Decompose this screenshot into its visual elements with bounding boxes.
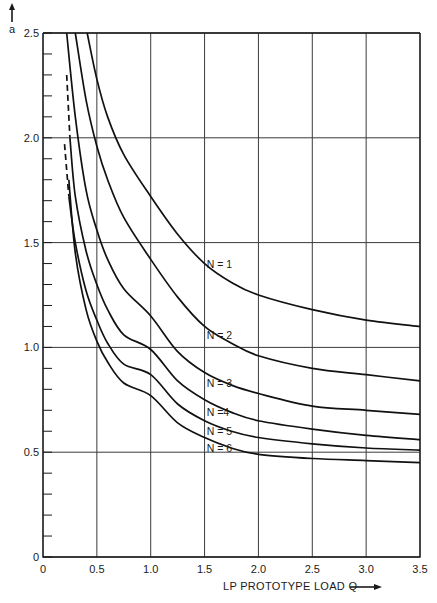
grid: [43, 33, 420, 557]
y-tick-labels: 00.51.01.52.02.5: [24, 27, 39, 563]
x-tick-label: 1.0: [143, 563, 158, 575]
curve-n-1: [87, 33, 420, 326]
plot-frame: [43, 33, 420, 557]
y-minor-ticks: [43, 33, 52, 557]
curve-dashed-extension: [65, 144, 69, 196]
x-tick-label: 0: [40, 563, 46, 575]
curve-n-2: [75, 33, 420, 381]
x-tick-labels: 00.51.01.52.02.53.03.5: [40, 563, 428, 575]
curve-n-5: [69, 196, 420, 450]
curve-label-n-1: N = 1: [207, 258, 233, 270]
curve-label-n-5: N = 5: [207, 425, 233, 437]
chart: 00.51.01.52.02.53.03.5 00.51.01.52.02.5 …: [0, 0, 437, 603]
curve-labels: N = 1N = 2N = 3N =4N = 5N = 6: [207, 258, 233, 454]
curve-n-3: [67, 33, 420, 414]
y-tick-label: 0.5: [24, 446, 39, 458]
y-tick-label: 1.5: [24, 237, 39, 249]
curve-n-6: [69, 180, 420, 463]
x-axis-label: LP PROTOTYPE LOAD Q: [223, 580, 357, 592]
x-tick-label: 3.0: [358, 563, 373, 575]
y-tick-label: 2.0: [24, 132, 39, 144]
curve-label-n-2: N = 2: [207, 329, 233, 341]
curve-label-n-6: N = 6: [207, 442, 233, 454]
y-tick-label: 2.5: [24, 27, 39, 39]
y-tick-label: 1.0: [24, 341, 39, 353]
curve-label-n-4: N =4: [207, 406, 230, 418]
y-axis-arrow-icon: [9, 3, 15, 22]
curve-dashed-extension: [67, 75, 70, 138]
y-axis-label: a: [9, 23, 16, 35]
x-tick-label: 3.5: [412, 563, 427, 575]
curves: [65, 33, 420, 463]
curve-label-n-3: N = 3: [207, 377, 233, 389]
x-tick-label: 0.5: [89, 563, 104, 575]
x-tick-label: 1.5: [197, 563, 212, 575]
x-tick-label: 2.5: [305, 563, 320, 575]
y-tick-label: 0: [33, 551, 39, 563]
x-tick-label: 2.0: [251, 563, 266, 575]
